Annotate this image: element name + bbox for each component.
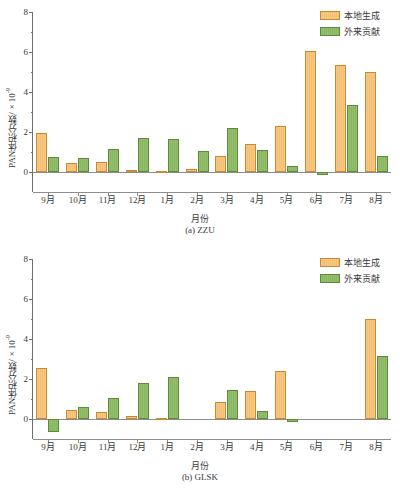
legend-swatch-local-icon-a bbox=[320, 11, 340, 20]
bar-external bbox=[377, 356, 388, 419]
legend-label-external-a: 外来贡献 bbox=[344, 25, 380, 38]
bar-local bbox=[215, 402, 226, 419]
bar-external bbox=[168, 139, 179, 172]
y-axis-tick-label: 0 bbox=[24, 415, 29, 424]
y-axis-tick bbox=[29, 92, 33, 93]
x-axis-tick-label: 7月 bbox=[340, 196, 354, 205]
chart-panel-zzu: PAN体积分数/×10-9 024689月10月11月12月1月2月3月4月5月… bbox=[0, 0, 400, 245]
x-axis-tick-label: 4月 bbox=[250, 443, 264, 452]
bar-external bbox=[78, 407, 89, 419]
y-axis-tick bbox=[29, 259, 33, 260]
bar-external bbox=[138, 138, 149, 172]
chart-panel-glsk: PAN体积分数/×10-9 024689月10月11月12月1月2月3月4月5月… bbox=[0, 245, 400, 491]
x-axis-line bbox=[33, 192, 391, 193]
y-axis-title-a: PAN体积分数/×10-9 bbox=[4, 38, 18, 168]
legend-item-external-b: 外来贡献 bbox=[320, 272, 380, 285]
y-axis-tick-label: 4 bbox=[24, 88, 29, 97]
y-axis-tick bbox=[29, 12, 33, 13]
bar-external bbox=[287, 166, 298, 172]
bar-local bbox=[245, 391, 256, 419]
bar-local bbox=[186, 169, 197, 172]
plot-area-b: 024689月10月11月12月1月2月3月4月5月6月7月8月 bbox=[32, 259, 390, 439]
legend-label-local-a: 本地生成 bbox=[344, 9, 380, 22]
x-axis-tick-label: 12月 bbox=[128, 443, 146, 452]
y-axis-tick-label: 6 bbox=[24, 295, 29, 304]
x-axis-tick-label: 6月 bbox=[310, 443, 324, 452]
bar-local bbox=[275, 126, 286, 172]
plot-area-a: 024689月10月11月12月1月2月3月4月5月6月7月8月 bbox=[32, 12, 390, 192]
y-axis-title-text-a: PAN体积分数/×10 bbox=[7, 93, 17, 168]
bar-external bbox=[108, 398, 119, 419]
y-axis-tick bbox=[29, 299, 33, 300]
x-axis-tick-label: 11月 bbox=[99, 196, 117, 205]
bar-external bbox=[257, 150, 268, 172]
y-axis-tick-label: 8 bbox=[24, 255, 29, 264]
x-axis-tick-label: 8月 bbox=[369, 443, 383, 452]
panel-caption-a: (a) ZZU bbox=[0, 225, 400, 235]
bar-external bbox=[138, 383, 149, 419]
bar-local bbox=[126, 416, 137, 419]
y-axis-tick-label: 4 bbox=[24, 335, 29, 344]
bar-local bbox=[156, 171, 167, 173]
y-axis-tick bbox=[29, 379, 33, 380]
x-axis-tick-label: 12月 bbox=[128, 196, 146, 205]
legend-label-local-b: 本地生成 bbox=[344, 256, 380, 269]
legend-swatch-local-icon-b bbox=[320, 258, 340, 267]
x-axis-tick-label: 6月 bbox=[310, 196, 324, 205]
x-axis-tick-label: 2月 bbox=[190, 443, 204, 452]
legend-label-external-b: 外来贡献 bbox=[344, 272, 380, 285]
bar-local bbox=[156, 418, 167, 420]
y-axis-tick bbox=[29, 419, 33, 420]
bar-local bbox=[275, 371, 286, 419]
bar-local bbox=[335, 65, 346, 172]
x-axis-title-a: 月份 bbox=[0, 212, 400, 225]
bar-external bbox=[227, 128, 238, 172]
y-axis-tick bbox=[29, 52, 33, 53]
bar-external bbox=[48, 157, 59, 172]
x-axis-tick-label: 4月 bbox=[250, 196, 264, 205]
y-axis-tick bbox=[29, 172, 33, 173]
bar-external bbox=[168, 377, 179, 419]
y-axis-exponent-a: -9 bbox=[4, 88, 11, 93]
bar-external bbox=[198, 151, 209, 172]
x-axis-tick-label: 7月 bbox=[340, 443, 354, 452]
bar-local bbox=[66, 163, 77, 172]
x-axis-tick-label: 3月 bbox=[220, 443, 234, 452]
bar-external bbox=[377, 156, 388, 172]
legend-b: 本地生成 外来贡献 bbox=[320, 256, 380, 285]
bar-local bbox=[215, 156, 226, 172]
bar-local bbox=[365, 72, 376, 172]
bar-local bbox=[36, 368, 47, 419]
x-axis-tick-label: 3月 bbox=[220, 196, 234, 205]
y-axis-minor-tick bbox=[31, 399, 33, 400]
x-axis-tick-label: 5月 bbox=[280, 443, 294, 452]
y-axis-minor-tick bbox=[31, 32, 33, 33]
bar-local bbox=[36, 133, 47, 172]
bar-external bbox=[317, 172, 328, 175]
zero-line bbox=[33, 172, 391, 173]
y-axis-title-b: PAN体积分数/×10-9 bbox=[4, 285, 18, 415]
bar-local bbox=[305, 51, 316, 172]
y-axis-tick-label: 0 bbox=[24, 168, 29, 177]
y-axis-minor-tick bbox=[31, 152, 33, 153]
bar-external bbox=[257, 411, 268, 419]
y-axis-tick-label: 2 bbox=[24, 128, 29, 137]
bar-local bbox=[96, 162, 107, 172]
bar-external bbox=[108, 149, 119, 172]
x-axis-tick-label: 8月 bbox=[369, 196, 383, 205]
bar-external bbox=[78, 158, 89, 172]
legend-item-local-b: 本地生成 bbox=[320, 256, 380, 269]
x-axis-tick-label: 9月 bbox=[41, 196, 55, 205]
legend-item-local-a: 本地生成 bbox=[320, 9, 380, 22]
y-axis-minor-tick bbox=[31, 279, 33, 280]
y-axis-tick-label: 6 bbox=[24, 48, 29, 57]
y-axis-tick-label: 8 bbox=[24, 8, 29, 17]
y-axis-minor-tick bbox=[31, 359, 33, 360]
bar-local bbox=[66, 410, 77, 419]
x-axis-tick-label: 9月 bbox=[41, 443, 55, 452]
x-axis-line bbox=[33, 439, 391, 440]
y-axis-minor-tick bbox=[31, 72, 33, 73]
x-axis-tick-label: 11月 bbox=[99, 443, 117, 452]
legend-a: 本地生成 外来贡献 bbox=[320, 9, 380, 38]
x-axis-tick-label: 10月 bbox=[69, 196, 87, 205]
